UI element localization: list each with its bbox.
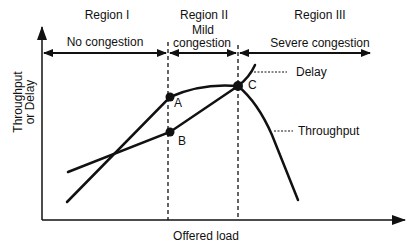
throughput-callout-label: Throughput xyxy=(298,124,360,138)
region-3-description: Severe congestion xyxy=(270,36,369,50)
delay-curve xyxy=(68,65,255,172)
region-2-title: Region II xyxy=(180,8,228,22)
region-1-title: Region I xyxy=(85,8,130,22)
region-2-description-line1: Mild xyxy=(192,23,214,37)
region-1-description: No congestion xyxy=(67,35,144,49)
point-a-label: A xyxy=(174,96,182,110)
congestion-diagram: Region I Region II Region III No congest… xyxy=(0,0,413,249)
y-axis-label: Throughput or Delay xyxy=(11,71,37,133)
region-3-title: Region III xyxy=(294,8,345,22)
y-axis-label-line2: or Delay xyxy=(23,80,37,125)
x-axis-label: Offered load xyxy=(173,229,239,243)
point-b-label: B xyxy=(178,134,186,148)
point-b xyxy=(166,128,175,137)
delay-callout-label: Delay xyxy=(296,65,327,79)
point-c xyxy=(233,81,243,91)
point-c-label: C xyxy=(248,78,257,92)
region-2-description-line2: congestion xyxy=(173,36,231,50)
